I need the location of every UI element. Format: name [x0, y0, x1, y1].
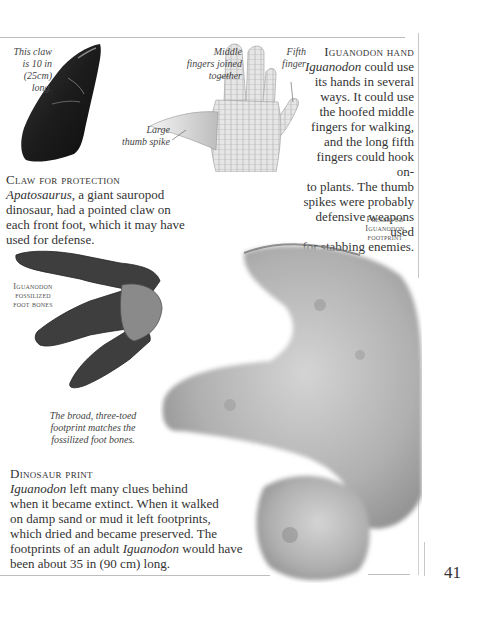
caption-line: footprint matches the: [28, 422, 158, 434]
paragraph-line: been about 35 in (90 cm) long.: [10, 556, 270, 571]
paragraph-line: which dried and became preserved. The: [10, 526, 270, 541]
section-heading: Iguanodon hand: [296, 44, 414, 59]
claw-caption-line: long.: [4, 82, 52, 94]
caption-line: fossilized foot bones.: [28, 434, 158, 446]
paragraph-line: its hands in several: [296, 74, 414, 89]
section-heading: Claw for protection: [6, 172, 196, 187]
middle-fingers-caption: Middle fingers joined together: [168, 46, 242, 82]
section-heading: Dinosaur print: [10, 466, 270, 481]
text: could use: [361, 59, 414, 74]
text: left many clues behind: [66, 481, 187, 496]
paragraph-line: when it became extinct. When it walked: [10, 496, 270, 511]
species-name: Apatosaurus: [6, 187, 72, 202]
label-line: foot bones: [8, 300, 58, 309]
claw-caption-line: This claw: [4, 46, 52, 58]
paragraph-line: footprints of an adult Iguanodon would h…: [10, 541, 270, 556]
paragraph-line: and the long fifth: [296, 134, 414, 149]
fossilized-foot-bones-image: [10, 245, 170, 390]
top-rule: [0, 37, 405, 38]
paragraph-line: fingers could hook on-: [296, 149, 414, 179]
species-name: Iguanodon: [305, 59, 361, 74]
paragraph-line: Iguanodon could use: [296, 59, 414, 74]
bottom-vertical-rule: [424, 542, 425, 576]
text: footprints of an adult: [10, 541, 123, 556]
dinosaur-print-paragraph: Dinosaur print Iguanodon left many clues…: [10, 466, 270, 571]
paragraph-line: fingers for walking,: [296, 119, 414, 134]
claw-size-caption: This claw is 10 in (25cm) long.: [4, 46, 52, 94]
paragraph-line: on damp sand or mud it left footprints,: [10, 511, 270, 526]
caption-line: fingers joined: [168, 58, 242, 70]
caption-line: thumb spike: [108, 136, 170, 148]
paragraph-line: the hoofed middle: [296, 104, 414, 119]
paragraph-line: ways. It could use: [296, 89, 414, 104]
caption-line: together: [168, 70, 242, 82]
paragraph-line: to plants. The thumb: [296, 179, 414, 194]
label-line: footprint: [356, 233, 414, 242]
caption-line: Middle: [168, 46, 242, 58]
claw-caption-line: is 10 in: [4, 58, 52, 70]
caption-line: The broad, three-toed: [28, 410, 158, 422]
footprint-match-caption: The broad, three-toed footprint matches …: [28, 410, 158, 446]
page-number: 41: [444, 563, 461, 583]
foot-bones-label: Iguanodon fossilized foot bones: [8, 282, 58, 309]
paragraph-line: Iguanodon left many clues behind: [10, 481, 270, 496]
preserved-footprint-label: Preserved Iguanodon footprint: [356, 215, 414, 242]
claw-caption-line: (25cm): [4, 70, 52, 82]
thumb-spike-caption: Large thumb spike: [108, 124, 170, 148]
caption-line: Large: [108, 124, 170, 136]
species-name: Iguanodon: [123, 541, 179, 556]
text: would have: [179, 541, 243, 556]
paragraph-line: spikes were probably: [296, 194, 414, 209]
species-name: Iguanodon: [10, 481, 66, 496]
